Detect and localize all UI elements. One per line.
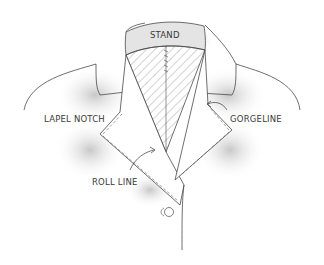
button-icon xyxy=(165,208,174,217)
label-gorgeline: GORGELINE xyxy=(230,115,282,124)
label-stand: STAND xyxy=(150,31,180,40)
label-lapel-notch: LAPEL NOTCH xyxy=(44,115,105,124)
label-roll-line: ROLL LINE xyxy=(92,178,138,187)
collar-diagram: STAND LAPEL NOTCH GORGELINE ROLL LINE xyxy=(0,0,324,265)
